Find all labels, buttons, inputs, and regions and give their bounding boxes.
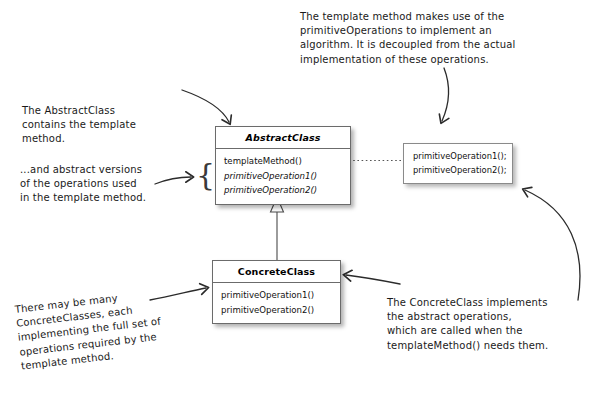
method-primitive-operation-2: primitiveOperation2() — [224, 183, 350, 198]
arrow-note-operations-to-brace — [155, 177, 191, 184]
annotation-abstract-operations: ...and abstract versions of the operatio… — [20, 163, 146, 206]
concrete-class-methods: primitiveOperation1() primitiveOperation… — [213, 283, 340, 323]
arrow-note-abstractclass-to-box — [182, 90, 229, 122]
code-line-primitive-operation-1: primitiveOperation1(); — [413, 149, 504, 163]
method-primitive-operation-1: primitiveOperation1() — [224, 169, 350, 184]
method-template-method: templateMethod() — [224, 154, 350, 169]
arrow-note-implements-to-codebox — [525, 190, 580, 300]
primitive-operations-code-box[interactable]: primitiveOperation1(); primitiveOperatio… — [403, 143, 513, 184]
annotation-line: method. — [22, 132, 136, 146]
annotation-line: contains the template — [22, 118, 136, 132]
concrete-class-title: ConcreteClass — [213, 261, 340, 283]
concrete-class-box[interactable]: ConcreteClass primitiveOperation1() prim… — [212, 260, 341, 324]
abstract-class-methods: templateMethod() primitiveOperation1() p… — [216, 149, 350, 204]
arrow-note-template-to-codebox — [442, 68, 449, 121]
annotation-line: ...and abstract versions — [20, 163, 146, 177]
annotation-line: which are called when the — [387, 324, 548, 338]
annotation-line: of the operations used — [20, 177, 146, 191]
annotation-concrete-implements: The ConcreteClass implements the abstrac… — [387, 296, 548, 353]
diagram-canvas: AbstractClass templateMethod() primitive… — [0, 0, 591, 399]
arrow-note-implements-to-box — [346, 275, 400, 284]
concrete-method-primitive-operation-1: primitiveOperation1() — [221, 288, 340, 303]
annotation-line: implementation of these operations. — [300, 53, 516, 67]
annotation-line: The AbstractClass — [22, 104, 136, 118]
annotation-line: templateMethod() needs them. — [387, 339, 548, 353]
concrete-method-primitive-operation-2: primitiveOperation2() — [221, 303, 340, 318]
annotation-line: The template method makes use of the — [300, 10, 516, 24]
annotation-line: in the template method. — [20, 191, 146, 205]
annotation-line: the abstract operations, — [387, 310, 548, 324]
annotation-line: algorithm. It is decoupled from the actu… — [300, 38, 516, 52]
annotation-line: The ConcreteClass implements — [387, 296, 548, 310]
abstract-operations-brace: { — [196, 160, 215, 190]
code-line-primitive-operation-2: primitiveOperation2(); — [413, 163, 504, 177]
annotation-line: primitiveOperations to implement an — [300, 24, 516, 38]
annotation-template-method: The template method makes use of the pri… — [300, 10, 516, 67]
abstract-class-box[interactable]: AbstractClass templateMethod() primitive… — [215, 126, 351, 205]
annotation-abstract-class: The AbstractClass contains the template … — [22, 104, 136, 147]
abstract-class-title: AbstractClass — [216, 127, 350, 149]
